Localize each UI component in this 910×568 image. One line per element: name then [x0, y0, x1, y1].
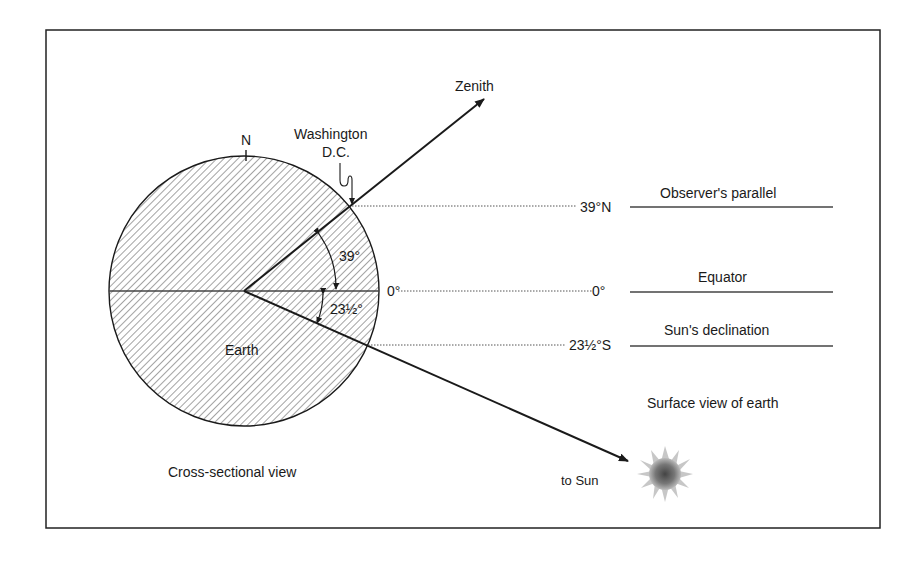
parallel-name-declination: Sun's declination [664, 322, 769, 338]
latitude-label-declination: 23½°S [569, 337, 611, 353]
parallel-name-equator: Equator [698, 269, 747, 285]
parallel-name-observer: Observer's parallel [660, 185, 776, 201]
sun-icon [637, 446, 693, 502]
dc-label: D.C. [322, 144, 350, 160]
equator-degree-label: 0° [387, 283, 400, 299]
diagram-canvas: N Washington D.C. Zenith 39° 23½° 0° Ear… [0, 0, 910, 568]
latitude-label-observer: 39°N [580, 199, 611, 215]
declination-angle-label: 23½° [330, 301, 363, 317]
washington-pointer-icon [340, 163, 352, 198]
earth-cross-section [109, 150, 379, 426]
earth-label: Earth [225, 342, 258, 358]
to-sun-label: to Sun [561, 473, 599, 488]
cross-section-caption: Cross-sectional view [168, 464, 297, 480]
latitude-label-equator: 0° [592, 283, 605, 299]
washington-label: Washington [294, 126, 367, 142]
observer-angle-label: 39° [339, 248, 360, 264]
zenith-label: Zenith [455, 78, 494, 94]
north-label: N [241, 132, 251, 148]
surface-view-caption: Surface view of earth [647, 395, 779, 411]
